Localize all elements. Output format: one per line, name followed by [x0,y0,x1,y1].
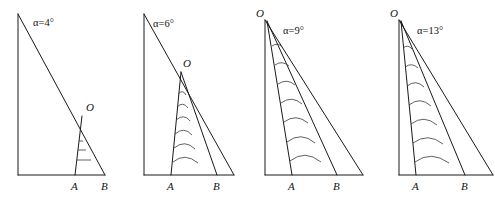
slip-line [415,156,449,163]
label-B: B [101,180,108,192]
slip-line [287,137,315,143]
slip-line [413,138,443,144]
label-B: B [213,180,220,192]
label-B: B [461,180,468,192]
slip-line [403,46,412,49]
label-O: O [86,101,94,113]
diagram-panel-4: O A B α=13° [371,0,495,205]
angle-label: α=9° [283,25,304,36]
label-A: A [287,180,295,192]
slip-line [175,130,192,135]
label-O: O [390,7,398,19]
slip-line [177,104,188,108]
slip-line [176,117,190,121]
diagram-panel-2: O A B α=6° [124,0,248,205]
slip-line [284,118,308,123]
label-A: A [411,180,419,192]
panel-3-canvas: O A B α=9° [248,0,372,205]
slope-line [18,14,105,175]
slip-line [281,99,302,104]
label-O: O [183,57,191,69]
slip-line [173,157,198,163]
slip-line [409,101,431,106]
panel-2-canvas: O A B α=6° [124,0,248,205]
diagram-panel-1: O A B α=4° [0,0,124,205]
slip-line [278,81,295,85]
slip-line [407,83,424,87]
slope-line [399,20,493,175]
slip-line [405,65,418,68]
angle-label: α=6° [153,18,174,29]
wedge-right-line [181,72,217,175]
slip-line [411,119,437,125]
wedge-left-line [267,21,292,175]
angle-label: α=4° [33,17,54,28]
slip-line [290,155,321,162]
diagram-panel-3: O A B α=9° [248,0,372,205]
label-O: O [256,7,264,19]
wedge-left-line [75,116,82,175]
label-A: A [70,180,78,192]
slip-line [174,144,195,149]
label-B: B [333,180,340,192]
panel-1-canvas: O A B α=4° [0,0,124,205]
angle-label: α=13° [417,25,443,36]
panel-4-canvas: O A B α=13° [371,0,495,205]
wedge-right-line [401,21,465,175]
figure-root: O A B α=4° O A B α=6° [0,0,495,205]
label-A: A [166,180,174,192]
